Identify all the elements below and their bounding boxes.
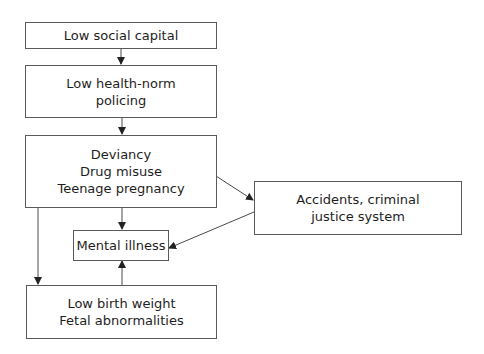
node-low-social-capital: Low social capital bbox=[25, 22, 217, 49]
node-label: Teenage pregnancy bbox=[57, 180, 184, 197]
node-accidents-criminal-justice: Accidents, criminal justice system bbox=[254, 181, 462, 235]
node-mental-illness: Mental illness bbox=[73, 230, 169, 261]
node-label: Low social capital bbox=[64, 27, 179, 44]
node-low-birth-weight: Low birth weight Fetal abnormalities bbox=[26, 285, 217, 339]
node-low-health-norm-policing: Low health-norm policing bbox=[25, 65, 217, 118]
node-label: Low health-norm bbox=[66, 75, 176, 92]
node-label: Accidents, criminal bbox=[296, 191, 419, 208]
node-label: Low birth weight bbox=[67, 295, 175, 312]
node-label: Fetal abnormalities bbox=[59, 312, 183, 329]
node-deviancy: Deviancy Drug misuse Teenage pregnancy bbox=[25, 135, 217, 208]
node-label: Mental illness bbox=[77, 237, 166, 254]
node-label: Drug misuse bbox=[80, 163, 162, 180]
edge-deviancy-to-accidents bbox=[216, 176, 253, 200]
node-label: policing bbox=[96, 92, 147, 109]
edge-accidents-to-mental-illness bbox=[169, 212, 254, 248]
node-label: Deviancy bbox=[91, 146, 151, 163]
node-label: justice system bbox=[311, 208, 405, 225]
